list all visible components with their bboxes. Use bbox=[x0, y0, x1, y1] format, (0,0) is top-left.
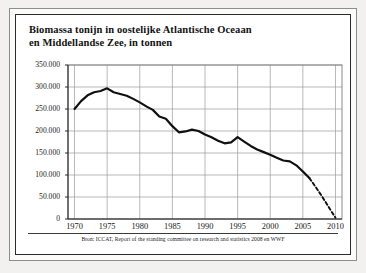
x-axis-tick-label: 2005 bbox=[286, 222, 320, 231]
gridlines bbox=[68, 65, 342, 219]
y-axis-tick-label: 0 bbox=[16, 214, 60, 223]
x-axis-tick-label: 1975 bbox=[90, 222, 124, 231]
y-axis-tick-label: 100.000 bbox=[16, 170, 60, 179]
source-note: Bron: ICCAT, Report of the standing comm… bbox=[16, 236, 350, 242]
x-axis-tick-label: 1970 bbox=[58, 222, 92, 231]
y-axis-tick-label: 200.000 bbox=[16, 126, 60, 135]
series-line-forecast bbox=[309, 178, 335, 218]
line-chart-svg bbox=[16, 59, 350, 234]
x-axis-tick-label: 2000 bbox=[253, 222, 287, 231]
chart-title-line-1: Biomassa tonijn in oostelijke Atlantisch… bbox=[29, 23, 329, 36]
y-axis-tick-label: 350.000 bbox=[16, 60, 60, 69]
y-axis-tick-label: 150.000 bbox=[16, 148, 60, 157]
x-axis-tick-label: 1980 bbox=[123, 222, 157, 231]
series-line-observed bbox=[75, 88, 310, 178]
chart-title: Biomassa tonijn in oostelijke Atlantisch… bbox=[29, 23, 329, 49]
y-axis-tick-label: 300.000 bbox=[16, 82, 60, 91]
x-axis-tick-label: 1985 bbox=[155, 222, 189, 231]
x-axis-tick-label: 1995 bbox=[221, 222, 255, 231]
y-axis-tick-label: 50.000 bbox=[16, 192, 60, 201]
plot-area: 350.000300.000250.000200.000150.000100.0… bbox=[16, 59, 350, 234]
source-divider bbox=[28, 233, 338, 234]
x-axis-tick-label: 1990 bbox=[188, 222, 222, 231]
x-axis-tick-label: 2010 bbox=[318, 222, 352, 231]
y-axis-tick-label: 250.000 bbox=[16, 104, 60, 113]
chart-title-line-2: en Middellandse Zee, in tonnen bbox=[29, 36, 329, 49]
chart-figure: Biomassa tonijn in oostelijke Atlantisch… bbox=[15, 14, 351, 255]
figure-page: Biomassa tonijn in oostelijke Atlantisch… bbox=[0, 0, 366, 273]
